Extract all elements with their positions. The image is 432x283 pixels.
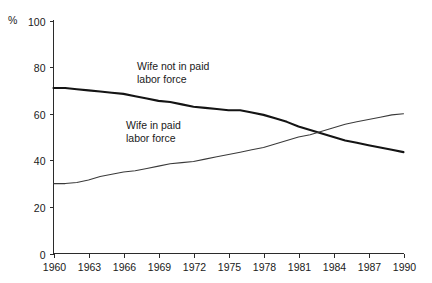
x-tick-label: 1981	[288, 261, 312, 273]
x-tick-label: 1990	[393, 261, 417, 273]
y-tick-label: 0	[40, 249, 46, 261]
annotation-wife-in-paid-labor-force-line1: Wife in paid	[126, 119, 181, 131]
y-tick-label: 20	[34, 202, 46, 214]
series-line-wife-not-in-paid-labor-force	[54, 88, 404, 152]
y-axis-group: 020406080100 %	[8, 14, 54, 261]
x-tick-label: 1966	[113, 261, 137, 273]
annotation-wife-not-in-paid-labor-force-line2: labor force	[137, 73, 187, 85]
x-tick-label: 1963	[78, 261, 102, 273]
series-line-wife-in-paid-labor-force	[54, 114, 404, 184]
line-chart: 020406080100 % 1960196319661969197219751…	[0, 0, 432, 283]
y-tick-label: 100	[28, 16, 46, 28]
y-tick-label: 40	[34, 155, 46, 167]
x-tick-label: 1969	[148, 261, 172, 273]
x-tick-labels: 1960196319661969197219751978198119841987…	[43, 261, 417, 273]
x-tick-label: 1960	[43, 261, 67, 273]
y-tick-label: 80	[34, 62, 46, 74]
x-tick-label: 1972	[183, 261, 207, 273]
x-tick-label: 1978	[253, 261, 277, 273]
chart-container: 020406080100 % 1960196319661969197219751…	[0, 0, 432, 283]
x-tick-marks	[55, 254, 405, 258]
y-tick-label: 60	[34, 109, 46, 121]
y-axis-unit-label: %	[8, 14, 17, 26]
annotation-wife-not-in-paid-labor-force-line1: Wife not in paid	[137, 60, 210, 72]
x-axis-group: 1960196319661969197219751978198119841987…	[43, 254, 417, 273]
series-group	[54, 88, 404, 184]
y-tick-marks	[50, 22, 54, 255]
x-tick-label: 1975	[218, 261, 242, 273]
y-tick-labels: 020406080100	[28, 16, 46, 261]
x-tick-label: 1984	[323, 261, 347, 273]
x-tick-label: 1987	[358, 261, 382, 273]
annotation-wife-in-paid-labor-force-line2: labor force	[126, 132, 176, 144]
